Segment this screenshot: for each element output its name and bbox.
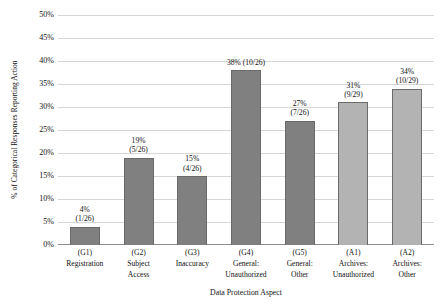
bar-chart: % of Categorical Responses Reporting Act… xyxy=(0,0,440,308)
bar-slot: 31% (9/29) xyxy=(327,15,381,245)
y-tick-label: 15% xyxy=(20,172,54,180)
bar[interactable] xyxy=(70,227,100,245)
x-axis-tick-labels: (G1)Registration(G2)Subject Access(G3)In… xyxy=(58,247,434,291)
bar[interactable] xyxy=(285,121,315,245)
bar-slot: 38% (10/26) xyxy=(219,15,273,245)
bars-layer: 4% (1/26)19% (5/26)15% (4/26)38% (10/26)… xyxy=(58,15,434,245)
bar[interactable] xyxy=(177,176,207,245)
bar-slot: 19% (5/26) xyxy=(112,15,166,245)
y-axis-title: % of Categorical Responses Reporting Act… xyxy=(10,15,19,245)
bar-slot: 15% (4/26) xyxy=(165,15,219,245)
y-tick-label: 35% xyxy=(20,80,54,88)
bar-value-label: 34% (10/29) xyxy=(352,67,440,86)
y-tick-label: 30% xyxy=(20,103,54,111)
bar-slot: 34% (10/29) xyxy=(380,15,434,245)
bar[interactable] xyxy=(338,102,368,245)
bar[interactable] xyxy=(392,89,422,245)
y-tick-label: 25% xyxy=(20,126,54,134)
plot-area: 4% (1/26)19% (5/26)15% (4/26)38% (10/26)… xyxy=(58,15,434,245)
y-tick-label: 20% xyxy=(20,149,54,157)
x-axis-title: Data Protection Aspect xyxy=(58,288,434,297)
bar[interactable] xyxy=(231,70,261,245)
bar-slot: 4% (1/26) xyxy=(58,15,112,245)
bar-slot: 27% (7/26) xyxy=(273,15,327,245)
x-tick-name: Archives: Other xyxy=(369,258,440,280)
y-tick-label: 40% xyxy=(20,57,54,65)
y-tick-label: 10% xyxy=(20,195,54,203)
y-tick-label: 50% xyxy=(20,11,54,19)
x-tick-code: (A2) xyxy=(369,247,440,258)
y-tick-label: 45% xyxy=(20,34,54,42)
x-tick-label: (A2)Archives: Other xyxy=(369,247,440,281)
